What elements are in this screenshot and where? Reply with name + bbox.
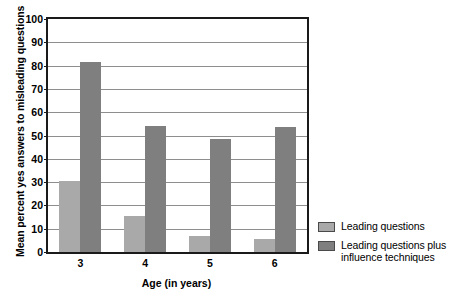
legend-item: Leading questions bbox=[318, 220, 463, 233]
y-tick-label: 80 bbox=[3, 60, 43, 72]
bar-6-series-0 bbox=[254, 239, 275, 252]
y-tick-label: 40 bbox=[3, 153, 43, 165]
x-tick-label: 4 bbox=[125, 257, 165, 269]
y-tick-label: 30 bbox=[3, 176, 43, 188]
y-tick-label: 90 bbox=[3, 36, 43, 48]
y-tick-label: 60 bbox=[3, 106, 43, 118]
bar-6-series-1 bbox=[275, 127, 296, 252]
y-tick-label: 0 bbox=[3, 246, 43, 258]
y-tick-mark bbox=[44, 42, 48, 43]
y-tick-mark bbox=[44, 159, 48, 160]
chart-legend: Leading questionsLeading questions plus … bbox=[318, 220, 463, 270]
legend-item: Leading questions plus influence techniq… bbox=[318, 239, 463, 264]
x-axis-title: Age (in years) bbox=[46, 277, 307, 289]
x-tick-label: 6 bbox=[255, 257, 295, 269]
plot-area: 0102030405060708090100 3456 bbox=[46, 17, 309, 254]
bar-5-series-1 bbox=[210, 139, 231, 252]
y-tick-mark bbox=[44, 112, 48, 113]
x-tick-label: 5 bbox=[190, 257, 230, 269]
y-tick-mark bbox=[44, 182, 48, 183]
bar-5-series-0 bbox=[189, 236, 210, 252]
bar-chart-figure: Mean percent yes answers to misleading q… bbox=[0, 0, 465, 303]
y-tick-label: 70 bbox=[3, 83, 43, 95]
dark-gray-swatch bbox=[318, 241, 335, 251]
legend-label: Leading questions plus influence techniq… bbox=[341, 239, 463, 264]
bar-4-series-0 bbox=[124, 216, 145, 252]
y-tick-mark bbox=[44, 19, 48, 20]
bar-series-container bbox=[48, 19, 307, 252]
y-tick-label: 50 bbox=[3, 130, 43, 142]
y-tick-label: 20 bbox=[3, 199, 43, 211]
y-tick-label: 100 bbox=[3, 13, 43, 25]
y-tick-mark bbox=[44, 229, 48, 230]
bar-4-series-1 bbox=[145, 126, 166, 252]
bar-3-series-1 bbox=[80, 62, 101, 252]
y-tick-mark bbox=[44, 89, 48, 90]
bar-3-series-0 bbox=[59, 181, 80, 252]
legend-label: Leading questions bbox=[341, 220, 425, 233]
y-tick-mark bbox=[44, 205, 48, 206]
y-tick-mark bbox=[44, 136, 48, 137]
y-tick-mark bbox=[44, 66, 48, 67]
y-tick-mark bbox=[44, 252, 48, 253]
y-tick-label: 10 bbox=[3, 223, 43, 235]
x-tick-label: 3 bbox=[60, 257, 100, 269]
light-gray-swatch bbox=[318, 222, 335, 232]
